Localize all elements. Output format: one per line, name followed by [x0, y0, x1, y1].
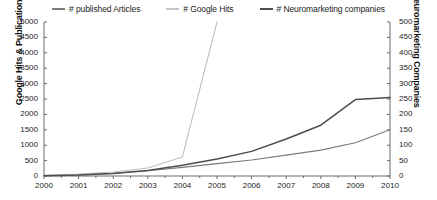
y-axis-left-tick-label: 4000	[20, 49, 38, 57]
y-axis-right-tick-label: 300	[399, 80, 412, 88]
x-axis-tick-label: 2010	[373, 181, 407, 190]
legend-line-google-hits	[166, 8, 179, 10]
x-axis-tick-label: 2003	[131, 181, 165, 190]
y-axis-right-ticks: 050100150200250300350400450500	[396, 22, 436, 176]
y-axis-right-tick-label: 250	[399, 95, 412, 103]
legend-item-neuromarketing-companies: # Neuromarketing companies	[260, 4, 385, 14]
x-axis-tick-label: 2004	[165, 181, 199, 190]
legend-item-google-hits: # Google Hits	[166, 4, 233, 14]
y-axis-right-tick-label: 500	[399, 18, 412, 26]
legend-label-published-articles: # published Articles	[69, 4, 140, 14]
series-line-published-articles	[44, 130, 390, 176]
legend-line-neuromarketing-companies	[260, 8, 273, 10]
plot-svg	[44, 22, 390, 176]
y-axis-left-tick-label: 500	[25, 157, 38, 165]
x-axis-tick-label: 2007	[269, 181, 303, 190]
x-axis-tick-label: 2000	[27, 181, 61, 190]
series-line-google-hits	[44, 22, 217, 175]
y-axis-left-tick-label: 3500	[20, 64, 38, 72]
chart-legend: # published Articles # Google Hits # Neu…	[0, 0, 437, 17]
x-axis-tick-label: 2002	[96, 181, 130, 190]
y-axis-right-tick-label: 50	[399, 157, 408, 165]
y-axis-right-tick-label: 150	[399, 126, 412, 134]
y-axis-left-ticks: 0500100015002000250030003500400045005000	[2, 22, 42, 176]
legend-line-published-articles	[52, 8, 65, 10]
x-axis-tick-label: 2006	[235, 181, 269, 190]
axis-lines	[44, 22, 390, 176]
tick-marks	[44, 22, 390, 179]
y-axis-right-tick-label: 350	[399, 64, 412, 72]
y-axis-right-tick-label: 100	[399, 141, 412, 149]
y-axis-left-tick-label: 1000	[20, 141, 38, 149]
y-axis-left-tick-label: 0	[34, 172, 38, 180]
series-lines	[44, 22, 390, 176]
legend-label-neuromarketing-companies: # Neuromarketing companies	[277, 4, 385, 14]
y-axis-left-tick-label: 2500	[20, 95, 38, 103]
y-axis-right-tick-label: 0	[399, 172, 403, 180]
x-axis-tick-label: 2009	[338, 181, 372, 190]
legend-item-published-articles: # published Articles	[52, 4, 140, 14]
y-axis-left-tick-label: 4500	[20, 33, 38, 41]
x-axis-tick-label: 2005	[200, 181, 234, 190]
y-axis-left-tick-label: 2000	[20, 110, 38, 118]
plot-area	[44, 22, 390, 176]
y-axis-right-tick-label: 450	[399, 33, 412, 41]
y-axis-right-tick-label: 400	[399, 49, 412, 57]
y-axis-right-tick-label: 200	[399, 110, 412, 118]
y-axis-left-tick-label: 1500	[20, 126, 38, 134]
x-axis-tick-label: 2001	[62, 181, 96, 190]
x-axis-tick-label: 2008	[304, 181, 338, 190]
neuromarketing-growth-chart: # published Articles # Google Hits # Neu…	[0, 0, 437, 200]
x-axis-ticks: 2000200120022003200420052006200720082009…	[44, 181, 390, 195]
y-axis-left-tick-label: 5000	[20, 18, 38, 26]
y-axis-left-tick-label: 3000	[20, 80, 38, 88]
legend-label-google-hits: # Google Hits	[183, 4, 233, 14]
